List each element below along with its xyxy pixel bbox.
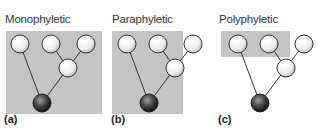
internal-node [166,59,184,77]
root-ancestor-node [33,94,51,112]
root-ancestor-node [140,94,158,112]
panel-label: (b) [111,113,125,125]
leaf-node [11,35,29,53]
leaf-node [260,35,278,53]
panel-paraphyletic: Paraphyletic (b) [107,0,217,136]
internal-node [277,59,295,77]
leaf-node [77,35,95,53]
leaf-node [229,35,247,53]
leaf-node [149,35,167,53]
leaf-node-excluded [295,35,313,53]
panel-monophyletic: Monophyletic (a) [0,0,110,136]
panel-label: (c) [218,113,231,125]
leaf-node [42,35,60,53]
root-ancestor-node [251,94,269,112]
internal-node [59,59,77,77]
panel-polyphyletic: Polyphyletic (c) [214,0,320,136]
leaf-node [118,35,136,53]
leaf-node-excluded [184,35,202,53]
panel-label: (a) [4,113,17,125]
